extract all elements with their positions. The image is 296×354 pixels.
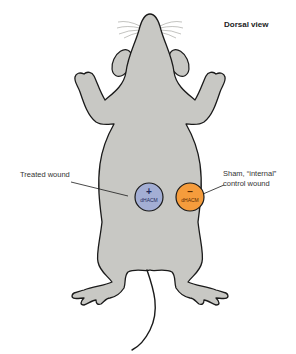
sham-label-line2: control wound [223, 179, 270, 188]
dhacm-label: dHACM [176, 197, 204, 204]
minus-sign: – [176, 187, 204, 197]
dhacm-label: dHACM [135, 197, 163, 204]
tail [132, 270, 155, 350]
mouse-body [72, 14, 228, 305]
control-wound: – dHACM [176, 183, 204, 211]
plus-sign: + [135, 187, 163, 197]
treated-wound-label: Treated wound [20, 170, 70, 179]
sham-label-line1: Sham, “internal” [223, 169, 276, 178]
treated-wound: + dHACM [135, 183, 163, 211]
